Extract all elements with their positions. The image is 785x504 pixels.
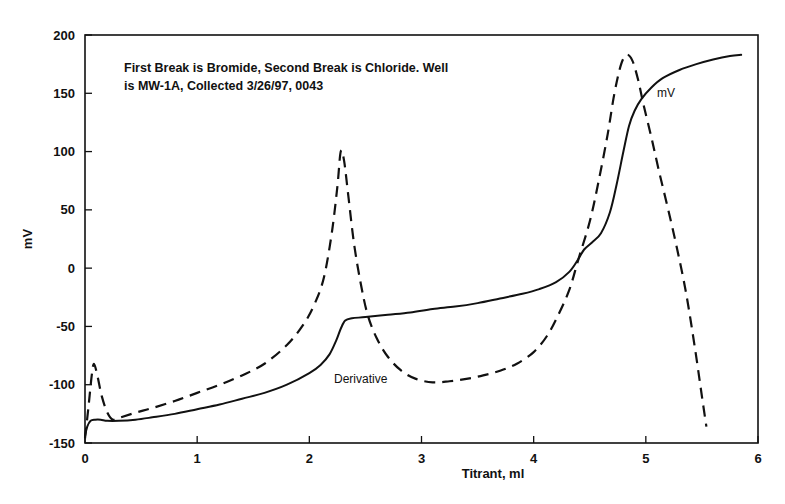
y-tick-label: 0 [68,261,75,276]
y-tick-label: -150 [49,436,75,451]
derivative-series-label: Derivative [334,372,388,386]
y-tick-label: 50 [61,202,75,217]
annotation-line-2: is MW-1A, Collected 3/26/97, 0043 [124,79,323,93]
y-tick-label: -50 [56,319,75,334]
chart-figure: 200150100500-50-100-150 0123456 mV Titra… [0,0,785,504]
x-tick-label: 2 [306,451,313,466]
x-tick-label: 6 [754,451,761,466]
x-tick-label: 5 [642,451,649,466]
y-tick-label: 150 [53,86,75,101]
x-tick-label: 3 [418,451,425,466]
y-tick-label: 100 [53,144,75,159]
x-tick-label: 1 [194,451,201,466]
x-tick-label: 0 [81,451,88,466]
y-tick-label: 200 [53,28,75,43]
titration-plot: 200150100500-50-100-150 0123456 mV Titra… [0,0,785,504]
annotation-line-1: First Break is Bromide, Second Break is … [124,61,448,75]
x-tick-label: 4 [530,451,538,466]
mv-series-label: mV [657,86,675,100]
y-axis-title: mV [20,229,35,250]
x-axis-title: Titrant, ml [462,466,525,481]
y-tick-label: -100 [49,377,75,392]
